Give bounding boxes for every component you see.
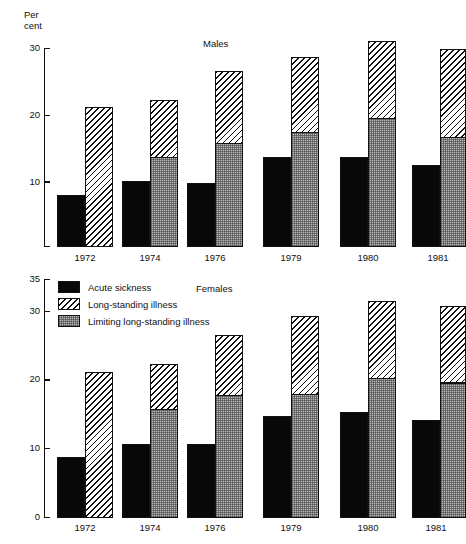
males-axis-top-cap [44,48,50,49]
females-tick-10 [44,448,50,449]
y-axis-unit-label: Per cent [24,10,42,31]
males-category-label-1981: 1981 [410,252,466,263]
females-category-label-1976: 1976 [185,522,245,533]
males-seg-longstanding-1974 [151,101,177,157]
females-divider-1981 [441,382,465,383]
legend-swatch-grey-stipple-icon [58,315,80,327]
females-seg-limiting-1976 [216,395,242,517]
males-seg-limiting-1981 [441,137,465,246]
males-bar-acute-1976 [187,183,215,247]
males-bar-acute-1980 [340,157,368,247]
females-bar-acute-1972 [57,457,85,519]
males-bar-acute-1974 [122,181,150,247]
females-y-axis-line [44,279,45,518]
males-seg-limiting-1979 [292,132,318,246]
females-tick-label-10: 10 [16,442,40,453]
females-bar-acute-1976 [187,444,215,518]
females-category-label-1981: 1981 [408,522,464,533]
males-divider-1979 [292,132,318,133]
males-tick-20 [44,115,50,116]
females-category-label-1979: 1979 [261,522,321,533]
females-bar-acute-1981 [412,420,440,518]
females-tick-label-0: 0 [16,511,40,522]
males-divider-1974 [151,157,177,158]
y-axis-unit-line2: cent [24,20,42,31]
legend-item-limiting-long-standing-illness: Limiting long-standing illness [58,314,209,328]
females-bar-longstanding-1981 [440,306,466,518]
males-tick-label-10: 10 [16,176,40,187]
females-tick-30 [44,311,50,312]
females-divider-1979 [292,394,318,395]
females-tick-label-35: 35 [16,273,40,284]
females-bar-longstanding-1979 [291,316,319,518]
females-bar-acute-1979 [263,416,291,518]
males-seg-longstanding-1981 [441,50,465,136]
females-tick-20 [44,379,50,380]
females-category-label-1974: 1974 [120,522,180,533]
males-tick-10 [44,181,50,182]
females-bar-longstanding-1980 [368,301,396,518]
males-divider-1980 [369,118,395,119]
males-category-label-1980: 1980 [338,252,398,263]
males-bar-longstanding-1976 [215,71,243,247]
females-bar-acute-1980 [340,412,368,518]
females-bar-acute-1974 [122,444,150,518]
males-seg-longstanding-1979 [292,58,318,132]
females-tick-label-20: 20 [16,373,40,384]
females-category-label-1980: 1980 [338,522,398,533]
females-seg-longstanding-1981 [441,307,465,382]
males-bar-longstanding-1981 [440,49,466,247]
legend-item-acute-sickness: Acute sickness [58,280,151,294]
females-divider-1974 [151,409,177,410]
males-y-axis-line [44,48,45,247]
males-tick-label-30: 30 [16,42,40,53]
males-divider-1976 [216,143,242,144]
legend-item-long-standing-illness: Long-standing illness [58,297,177,311]
males-seg-limiting-1974 [151,157,177,246]
males-chart-panel: Per cent Males 30 20 10 1972 1974 [0,0,466,272]
females-seg-longstanding-1976 [216,336,242,395]
males-bar-longstanding-1979 [291,57,319,247]
females-seg-longstanding-1979 [292,317,318,394]
females-seg-limiting-1980 [369,378,395,517]
males-bar-longstanding-1974 [150,100,178,247]
females-chart-panel: Females 35 30 20 10 0 Acute sickness Lon… [0,272,466,544]
males-bar-longstanding-1980 [368,41,396,247]
males-seg-longstanding-1980 [369,42,395,118]
males-divider-1981 [441,137,465,138]
females-bar-longstanding-1976 [215,335,243,518]
females-divider-1980 [369,378,395,379]
legend-label-long-standing-illness: Long-standing illness [88,299,177,310]
females-bar-longstanding-1972 [85,372,113,518]
legend-swatch-diagonal-hatch-icon [58,298,80,310]
females-axis-bottom-cap [44,517,50,518]
legend: Acute sickness Long-standing illness Lim… [58,280,288,330]
females-seg-longstanding-1974 [151,365,177,409]
males-category-label-1979: 1979 [261,252,321,263]
males-bar-acute-1981 [412,165,440,247]
females-category-label-1972: 1972 [55,522,115,533]
females-divider-1976 [216,395,242,396]
males-panel-title: Males [203,38,228,49]
females-axis-top-cap [44,279,50,280]
males-category-label-1974: 1974 [120,252,180,263]
males-bar-acute-1979 [263,157,291,247]
females-tick-label-30: 30 [16,305,40,316]
legend-label-limiting-long-standing-illness: Limiting long-standing illness [88,316,209,327]
legend-swatch-solid-black-icon [58,281,80,293]
females-bar-longstanding-1974 [150,364,178,518]
y-axis-unit-line1: Per [24,9,39,20]
males-seg-limiting-1980 [369,118,395,246]
females-seg-longstanding-1980 [369,302,395,378]
males-seg-longstanding-1976 [216,72,242,143]
females-seg-limiting-1979 [292,394,318,517]
females-seg-limiting-1974 [151,409,177,517]
males-axis-bottom-cap [44,246,50,247]
males-category-label-1976: 1976 [185,252,245,263]
legend-label-acute-sickness: Acute sickness [88,282,151,293]
males-seg-limiting-1976 [216,143,242,246]
females-seg-limiting-1981 [441,382,465,517]
chart-figure: Per cent Males 30 20 10 1972 1974 [0,0,466,544]
males-category-label-1972: 1972 [55,252,115,263]
males-tick-label-20: 20 [16,109,40,120]
